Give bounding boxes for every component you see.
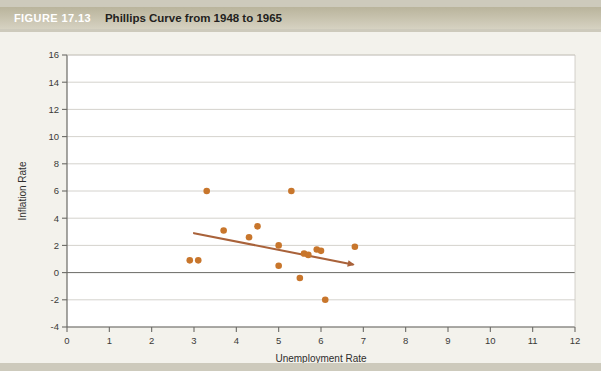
data-point xyxy=(352,243,359,250)
figure-container: FIGURE 17.13 Phillips Curve from 1948 to… xyxy=(0,0,601,371)
x-tick-label: 5 xyxy=(276,335,281,346)
y-tick-label: 8 xyxy=(54,158,59,169)
x-tick-label: 4 xyxy=(234,335,239,346)
data-point xyxy=(297,275,304,282)
y-tick-label: 2 xyxy=(54,240,59,251)
y-tick-label: 4 xyxy=(54,213,59,224)
x-tick-label: 1 xyxy=(107,335,112,346)
y-tick-label: 6 xyxy=(54,185,59,196)
x-tick-label: 6 xyxy=(318,335,323,346)
data-point xyxy=(305,252,312,259)
x-tick-label: 7 xyxy=(361,335,366,346)
y-axis-title: Inflation Rate xyxy=(17,161,28,220)
data-point xyxy=(220,227,227,234)
data-point xyxy=(318,248,325,255)
x-tick-label: 9 xyxy=(445,335,450,346)
x-tick-label: 12 xyxy=(570,335,581,346)
x-tick-label: 2 xyxy=(149,335,154,346)
y-tick-label: -4 xyxy=(51,321,59,332)
figure-header-bar: FIGURE 17.13 Phillips Curve from 1948 to… xyxy=(0,7,601,29)
y-tick-label: 10 xyxy=(48,131,59,142)
figure-title: Phillips Curve from 1948 to 1965 xyxy=(105,12,282,24)
data-point xyxy=(203,188,210,195)
x-tick-label: 0 xyxy=(64,335,69,346)
data-point xyxy=(195,257,202,264)
y-tick-label: 16 xyxy=(48,49,59,60)
y-tick-label: 12 xyxy=(48,104,59,115)
data-point xyxy=(322,297,329,304)
x-axis-title: Unemployment Rate xyxy=(275,353,367,363)
data-point xyxy=(275,242,282,249)
y-tick-label: 14 xyxy=(48,77,59,88)
y-tick-label: 0 xyxy=(54,267,59,278)
scatter-plot-svg: -4-202468101214160123456789101112Unemplo… xyxy=(0,32,601,363)
chart-card: -4-202468101214160123456789101112Unemplo… xyxy=(0,32,601,363)
data-point xyxy=(246,234,253,241)
x-tick-label: 10 xyxy=(485,335,496,346)
data-point xyxy=(254,223,261,230)
data-point xyxy=(275,263,282,270)
figure-number-label: FIGURE 17.13 xyxy=(14,12,91,24)
data-point xyxy=(186,257,193,264)
y-tick-label: -2 xyxy=(51,294,59,305)
data-point xyxy=(288,188,295,195)
x-tick-label: 8 xyxy=(403,335,408,346)
x-tick-label: 11 xyxy=(528,335,538,346)
plot-area: -4-202468101214160123456789101112Unemplo… xyxy=(0,32,601,363)
x-tick-label: 3 xyxy=(191,335,196,346)
